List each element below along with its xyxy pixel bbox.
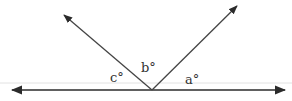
angle-label-a: a°	[185, 72, 199, 87]
angle-diagram: c° b° a°	[0, 0, 292, 101]
angle-label-b: b°	[141, 60, 156, 75]
left-ray	[64, 15, 152, 90]
angle-label-c: c°	[110, 70, 124, 85]
